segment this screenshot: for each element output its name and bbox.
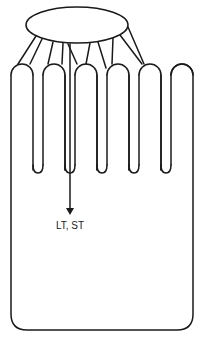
body-shape bbox=[11, 64, 193, 330]
connector-line bbox=[112, 38, 113, 64]
diagram-canvas: LT, ST bbox=[0, 0, 201, 344]
connector-line bbox=[48, 42, 53, 64]
connector-line bbox=[18, 36, 36, 64]
connector-line bbox=[128, 27, 144, 64]
body-outline bbox=[11, 64, 193, 330]
arrow-label: LT, ST bbox=[56, 220, 84, 231]
finger-cap bbox=[11, 64, 33, 75]
connector-line bbox=[98, 42, 106, 68]
connector-line bbox=[62, 43, 63, 64]
connector-line bbox=[120, 35, 142, 64]
connector-line bbox=[86, 43, 90, 64]
oval-structure bbox=[26, 7, 128, 43]
